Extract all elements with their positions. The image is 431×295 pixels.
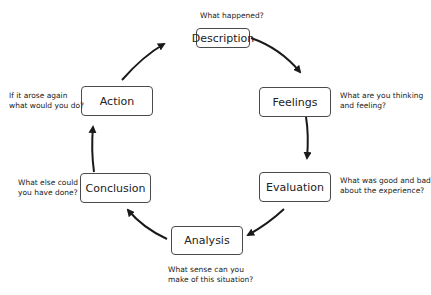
stage-prompt: If it arose again what would you do? (9, 91, 84, 111)
stage-prompt: What was good and bad about the experien… (340, 176, 431, 196)
stage-prompt: What else could you have done? (18, 178, 78, 198)
stage-action: Action (81, 86, 153, 116)
arrow-evaluation-to-analysis (248, 209, 284, 235)
arrow-action-to-description (122, 44, 164, 80)
stage-label: Conclusion (86, 182, 146, 195)
stage-label: Description (192, 32, 255, 45)
arrow-analysis-to-conclusion (128, 210, 167, 239)
stage-label: Feelings (272, 96, 317, 109)
stage-label: Evaluation (266, 181, 324, 194)
stage-conclusion: Conclusion (80, 173, 151, 203)
stage-evaluation: Evaluation (259, 172, 331, 202)
stage-label: Action (100, 95, 134, 108)
arrow-feelings-to-evaluation (306, 117, 308, 158)
stage-prompt: What are you thinking and feeling? (340, 91, 423, 111)
stage-label: Analysis (184, 234, 229, 247)
stage-prompt: What happened? (200, 11, 264, 21)
stage-description: Description (196, 28, 250, 48)
stage-prompt: What sense can you make of this situatio… (168, 265, 253, 285)
arrow-conclusion-to-action (92, 127, 94, 172)
stage-feelings: Feelings (259, 87, 331, 117)
stage-analysis: Analysis (171, 226, 243, 255)
arrow-description-to-feelings (251, 38, 300, 72)
